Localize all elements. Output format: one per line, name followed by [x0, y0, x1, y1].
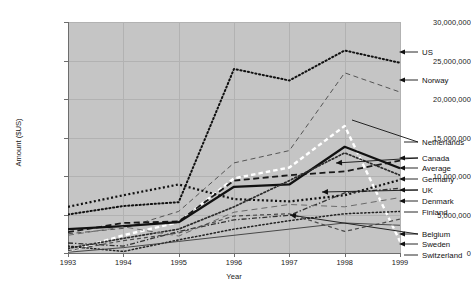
- legend-label-average: Average: [422, 164, 451, 173]
- leader-arrowhead: [399, 155, 405, 160]
- leader-arrowhead: [399, 49, 405, 54]
- leader-arrowhead-interior: [322, 189, 328, 195]
- legend-label-germany: Germany: [422, 175, 454, 184]
- leader-arrowhead: [399, 165, 405, 170]
- series-line-us: [68, 50, 400, 214]
- legend-label-sweden: Sweden: [422, 240, 450, 249]
- series-line-average: [68, 147, 400, 229]
- series-lines: [0, 0, 471, 293]
- series-line-uk: [68, 180, 400, 207]
- series-line-canada: [68, 161, 400, 233]
- series-line-denmark: [68, 188, 400, 246]
- legend-label-belgium: Belgium: [422, 230, 450, 239]
- series-line-netherlands: [68, 126, 400, 252]
- leader-arrowhead: [399, 176, 405, 181]
- legend-label-us: US: [422, 48, 433, 57]
- legend-label-uk: UK: [422, 186, 433, 195]
- legend-label-finland: Finland: [422, 208, 448, 217]
- legend-label-switzerland: Switzerland: [422, 251, 462, 260]
- legend-label-denmark: Denmark: [422, 197, 454, 206]
- leader-line-interior: [352, 120, 418, 142]
- legend-label-netherlands: Netherlands: [422, 138, 464, 147]
- legend-label-canada: Canada: [422, 154, 449, 163]
- leader-arrowhead: [399, 241, 405, 246]
- leader-arrowhead: [399, 77, 405, 82]
- leader-arrowhead: [399, 198, 405, 203]
- series-line-norway: [68, 73, 400, 234]
- leader-line-interior: [290, 215, 418, 234]
- line-chart: 05,000,00010,000,00015,000,00020,000,000…: [0, 0, 471, 293]
- series-line-germany: [68, 153, 400, 248]
- leader-arrowhead-interior: [336, 160, 342, 166]
- legend-label-norway: Norway: [422, 76, 448, 85]
